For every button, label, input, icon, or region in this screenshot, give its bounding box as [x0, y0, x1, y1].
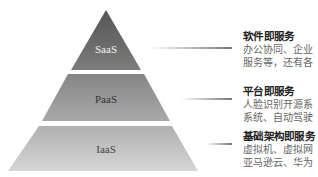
- desc-saas-title: 软件即服务: [243, 30, 318, 43]
- tier-label-paas: PaaS: [76, 93, 136, 105]
- connector-iaas: [206, 143, 232, 145]
- desc-iaas-line-1: 虚拟机、虚拟网: [243, 143, 318, 156]
- desc-saas-line-1: 办公协同、企业: [243, 43, 318, 56]
- desc-paas: 平台即服务 人脸识别开源系 系统、自动驾驶: [243, 85, 318, 124]
- desc-iaas-title: 基础架构即服务: [243, 130, 318, 143]
- desc-saas-line-2: 服务等，还有各: [243, 56, 318, 69]
- desc-saas: 软件即服务 办公协同、企业 服务等，还有各: [243, 30, 318, 69]
- desc-paas-line-2: 系统、自动驾驶: [243, 111, 318, 124]
- desc-iaas-line-2: 亚马逊云、华为: [243, 156, 318, 169]
- connector-saas: [150, 47, 232, 49]
- tier-label-iaas: IaaS: [76, 143, 136, 155]
- tier-label-saas: SaaS: [76, 43, 136, 55]
- tier-saas-shape: [71, 10, 141, 70]
- desc-iaas: 基础架构即服务 虚拟机、虚拟网 亚马逊云、华为: [243, 130, 318, 169]
- connector-paas: [180, 98, 232, 100]
- desc-paas-title: 平台即服务: [243, 85, 318, 98]
- desc-paas-line-1: 人脸识别开源系: [243, 98, 318, 111]
